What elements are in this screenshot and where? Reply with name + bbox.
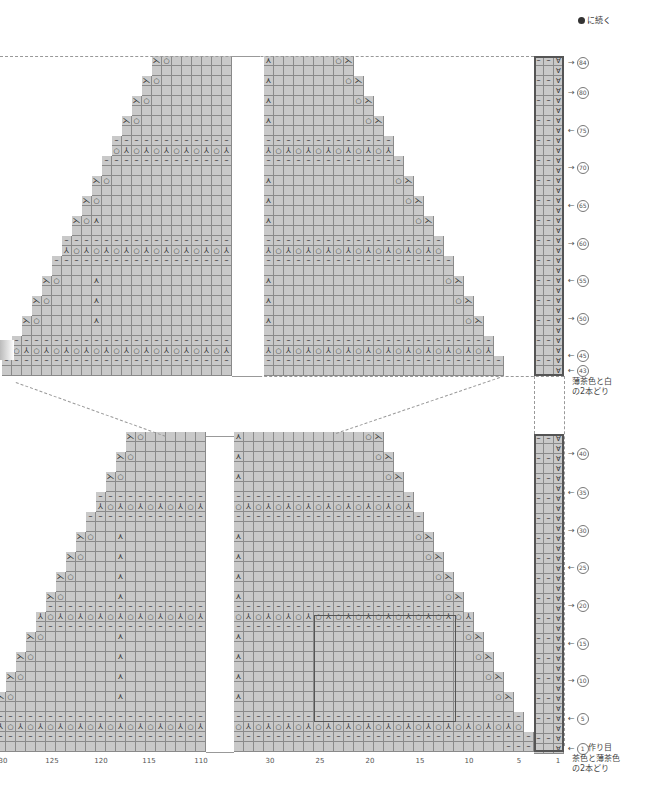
lower-left-grid-cell bbox=[136, 572, 146, 582]
lower-left-grid-cell bbox=[106, 662, 116, 672]
upper-left-grid-cell bbox=[32, 356, 42, 366]
upper-left-grid-cell bbox=[172, 126, 182, 136]
upper-right-grid-cell bbox=[344, 116, 354, 126]
lower-right-grid-cell bbox=[494, 712, 504, 722]
upper-right-grid-cell bbox=[334, 196, 344, 206]
lower-left-grid-cell bbox=[156, 622, 166, 632]
upper-right-grid-cell bbox=[294, 186, 304, 196]
upper-right-grid-cell bbox=[334, 66, 344, 76]
lower-right-grid-cell bbox=[394, 642, 404, 652]
upper-right-grid-cell bbox=[364, 136, 374, 146]
upper-right-grid-cell bbox=[364, 346, 374, 356]
upper-left-grid-cell bbox=[102, 226, 112, 236]
upper-left-grid-cell bbox=[92, 316, 102, 326]
lower-left-grid-cell bbox=[116, 522, 126, 532]
upper-right-grid-cell bbox=[364, 316, 374, 326]
lower-left-grid-cell bbox=[186, 662, 196, 672]
lower-left-grid-cell bbox=[46, 652, 56, 662]
upper-right-grid-cell bbox=[354, 216, 364, 226]
upper-left-grid-cell bbox=[192, 116, 202, 126]
upper-right-grid-cell bbox=[364, 296, 374, 306]
lower-left-grid-cell bbox=[166, 702, 176, 712]
lower-right-grid-cell bbox=[334, 592, 344, 602]
lower-left-grid-cell bbox=[166, 442, 176, 452]
upper-right-grid-cell bbox=[414, 236, 424, 246]
lower-right-grid-cell bbox=[314, 722, 324, 732]
upper-right-grid-cell bbox=[394, 186, 404, 196]
upper-left-grid-cell bbox=[182, 126, 192, 136]
upper-selvedge-cell bbox=[554, 366, 564, 376]
upper-right-grid-cell bbox=[454, 276, 464, 286]
lower-right-grid-cell bbox=[304, 602, 314, 612]
upper-right-grid-cell bbox=[284, 66, 294, 76]
upper-selvedge-cell bbox=[534, 266, 544, 276]
upper-right-grid-cell bbox=[324, 126, 334, 136]
upper-left-grid-cell bbox=[162, 76, 172, 86]
lower-right-grid-cell bbox=[384, 582, 394, 592]
lower-yarn-note-line2: の2本どり bbox=[572, 764, 620, 774]
lower-selvedge-cell bbox=[554, 544, 564, 554]
lower-right-grid-cell bbox=[294, 432, 304, 442]
lower-left-grid-cell bbox=[126, 482, 136, 492]
lower-right-grid-cell bbox=[354, 642, 364, 652]
upper-left-grid-cell bbox=[222, 186, 232, 196]
lower-right-grid-cell bbox=[294, 702, 304, 712]
lower-right-grid-cell bbox=[314, 592, 324, 602]
lower-left-grid-cell bbox=[146, 642, 156, 652]
upper-left-grid-cell bbox=[112, 336, 122, 346]
lower-left-grid-cell bbox=[106, 542, 116, 552]
upper-left-grid-cell bbox=[192, 306, 202, 316]
lower-left-grid-cell bbox=[46, 712, 56, 722]
lower-selvedge-cell bbox=[534, 504, 544, 514]
upper-left-grid-cell bbox=[142, 96, 152, 106]
upper-right-grid-cell bbox=[494, 366, 504, 376]
upper-right-grid-cell bbox=[454, 286, 464, 296]
upper-left-grid-cell bbox=[162, 196, 172, 206]
upper-left-grid-cell bbox=[152, 286, 162, 296]
lower-right-grid-cell bbox=[424, 642, 434, 652]
lower-right-grid-cell bbox=[244, 682, 254, 692]
lower-right-grid-cell bbox=[484, 722, 494, 732]
upper-right-grid-cell bbox=[394, 216, 404, 226]
lower-left-grid-cell bbox=[126, 612, 136, 622]
lower-right-grid-cell bbox=[304, 462, 314, 472]
upper-right-grid-cell bbox=[444, 306, 454, 316]
lower-right-grid-cell bbox=[304, 552, 314, 562]
lower-left-grid-cell bbox=[176, 592, 186, 602]
lower-right-grid-cell bbox=[434, 642, 444, 652]
lower-right-grid-cell bbox=[264, 702, 274, 712]
lower-selvedge-cell bbox=[554, 434, 564, 444]
lower-right-grid-cell bbox=[304, 592, 314, 602]
upper-right-grid-cell bbox=[284, 276, 294, 286]
lower-right-grid-cell bbox=[464, 732, 474, 742]
upper-right-grid-cell bbox=[354, 346, 364, 356]
lower-right-grid-cell bbox=[304, 452, 314, 462]
lower-right-grid-cell bbox=[414, 622, 424, 632]
lower-right-grid-cell bbox=[344, 722, 354, 732]
lower-left-grid-cell bbox=[26, 712, 36, 722]
lower-right-grid-cell bbox=[444, 642, 454, 652]
lower-selvedge-cell bbox=[544, 434, 554, 444]
lower-right-grid-cell bbox=[434, 562, 444, 572]
upper-left-grid-cell bbox=[192, 276, 202, 286]
lower-right-grid-cell bbox=[284, 522, 294, 532]
lower-selvedge-cell bbox=[544, 644, 554, 654]
lower-right-grid-cell bbox=[324, 452, 334, 462]
lower-right-grid-cell bbox=[234, 452, 244, 462]
lower-right-grid-cell bbox=[404, 692, 414, 702]
lower-right-grid-cell bbox=[354, 512, 364, 522]
lower-right-grid-cell bbox=[324, 732, 334, 742]
row-direction-arrow-icon: ← bbox=[568, 744, 575, 753]
upper-left-grid-cell bbox=[172, 96, 182, 106]
upper-selvedge-cell bbox=[554, 106, 564, 116]
upper-right-grid-cell bbox=[264, 56, 274, 66]
upper-left-grid-cell bbox=[122, 316, 132, 326]
upper-right-grid-cell bbox=[374, 266, 384, 276]
lower-selvedge-cell bbox=[554, 624, 564, 634]
lower-right-grid-cell bbox=[424, 532, 434, 542]
lower-selvedge-cell bbox=[534, 534, 544, 544]
lower-left-grid-cell bbox=[156, 712, 166, 722]
upper-right-grid-cell bbox=[274, 236, 284, 246]
lower-right-grid-cell bbox=[274, 512, 284, 522]
lower-left-grid-cell bbox=[106, 572, 116, 582]
